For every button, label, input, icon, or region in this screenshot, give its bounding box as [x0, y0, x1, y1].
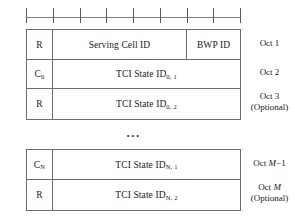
octet-label-2: Oct 2	[244, 67, 295, 78]
ruler-tick	[53, 8, 54, 23]
reserved-flag-cell: R	[27, 180, 53, 210]
octet-label-m-prefix: Oct	[258, 182, 273, 192]
tci-state-id-n-2-label: TCI State ID	[115, 190, 165, 200]
cn-flag-cell: CN	[27, 150, 53, 179]
octet-label-m-note: (Optional)	[244, 193, 295, 204]
octet-label-3-note: (Optional)	[244, 102, 295, 113]
table-row-oct3: R TCI State ID0, 2	[27, 88, 240, 119]
ruler-tick	[187, 8, 188, 23]
reserved-flag-cell: R	[27, 30, 53, 59]
table-row-oct-m-minus-1: CN TCI State IDN, 1	[27, 150, 240, 179]
tci-state-id-n-2-cell: TCI State IDN, 2	[53, 180, 240, 210]
bit-ruler	[26, 8, 241, 22]
octet-table-upper: R Serving Cell ID BWP ID C0 TCI State ID…	[26, 29, 241, 120]
c0-flag-cell: C0	[27, 60, 53, 88]
octet-label-1-text: Oct 1	[260, 38, 280, 48]
table-row-oct-m: R TCI State IDN, 2	[27, 179, 240, 210]
tci-state-id-0-2-cell: TCI State ID0, 2	[53, 89, 240, 119]
reserved-flag-label: R	[36, 190, 42, 200]
reserved-flag-label: R	[36, 99, 42, 109]
octet-label-3-text: Oct 3	[260, 91, 280, 101]
octet-diagram: R Serving Cell ID BWP ID C0 TCI State ID…	[0, 0, 295, 220]
ruler-tick	[160, 8, 161, 23]
ruler-tick	[213, 8, 214, 23]
bwp-id-cell: BWP ID	[186, 30, 240, 59]
ruler-tick	[240, 8, 241, 23]
serving-cell-id-cell: Serving Cell ID	[53, 30, 186, 59]
reserved-flag-cell: R	[27, 89, 53, 119]
octet-label-m-minus-1-suffix: −1	[276, 158, 286, 168]
tci-state-id-0-1-cell: TCI State ID0, 1	[53, 60, 240, 88]
tci-state-id-n-1-label: TCI State ID	[115, 160, 165, 170]
octet-label-1: Oct 1	[244, 38, 295, 49]
octet-table-lower: CN TCI State IDN, 1 R TCI State IDN, 2	[26, 149, 241, 211]
table-row-oct2: C0 TCI State ID0, 1	[27, 59, 240, 88]
octet-label-2-text: Oct 2	[260, 67, 280, 77]
serving-cell-id-label: Serving Cell ID	[89, 40, 151, 50]
octet-label-m-minus-1-variable: M	[269, 158, 277, 168]
octet-label-3: Oct 3 (Optional)	[244, 91, 295, 112]
ruler-tick	[106, 8, 107, 23]
ruler-tick	[80, 8, 81, 23]
octet-label-m-minus-1: Oct M−1	[244, 158, 295, 169]
ruler-tick	[133, 8, 134, 23]
octet-label-m-minus-1-prefix: Oct	[253, 158, 268, 168]
tci-state-id-n-1-cell: TCI State IDN, 1	[53, 150, 240, 179]
ruler-tick	[26, 8, 27, 23]
tci-state-id-0-1-label: TCI State ID	[116, 69, 166, 79]
tci-state-id-0-2-label: TCI State ID	[116, 99, 166, 109]
octet-label-m: Oct M (Optional)	[244, 182, 295, 203]
bwp-id-label: BWP ID	[197, 40, 230, 50]
table-row-oct1: R Serving Cell ID BWP ID	[27, 30, 240, 59]
reserved-flag-label: R	[36, 40, 42, 50]
octet-label-m-variable: M	[273, 182, 281, 192]
continuation-ellipsis: ...	[26, 125, 241, 141]
